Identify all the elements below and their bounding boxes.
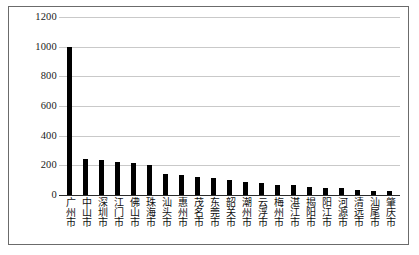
chart-frame: 120010008006004002000 广州市中山市深圳市江门市佛山市珠海市…	[8, 6, 409, 245]
bar-slot	[189, 17, 205, 195]
chart-plot-wrapper: 120010008006004002000 广州市中山市深圳市江门市佛山市珠海市…	[9, 7, 408, 244]
x-axis-label: 潮州市	[239, 197, 253, 243]
x-axis-label: 阳江市	[319, 197, 333, 243]
bar[interactable]	[131, 163, 136, 195]
x-label-slot: 汕尾市	[366, 197, 382, 243]
bar[interactable]	[243, 182, 248, 195]
y-axis-tick-0: 0	[17, 190, 57, 201]
bar-slot	[270, 17, 286, 195]
x-label-slot: 韶关市	[221, 197, 237, 243]
bar-slot	[77, 17, 93, 195]
x-label-slot: 佛山市	[125, 197, 141, 243]
x-label-slot: 肇庆市	[382, 197, 398, 243]
bar[interactable]	[387, 191, 392, 195]
x-axis-label: 惠州市	[174, 197, 188, 243]
y-axis-tick-400: 400	[17, 130, 57, 141]
x-label-slot: 珠海市	[141, 197, 157, 243]
x-label-slot: 深圳市	[93, 197, 109, 243]
bar[interactable]	[259, 183, 264, 195]
x-axis-label: 东莞市	[206, 197, 220, 243]
bar-slot	[318, 17, 334, 195]
x-axis-label: 佛山市	[126, 197, 140, 243]
x-label-slot: 惠州市	[173, 197, 189, 243]
bar[interactable]	[275, 185, 280, 195]
x-label-slot: 广州市	[61, 197, 77, 243]
y-axis-tick-1200: 1200	[17, 12, 57, 23]
x-axis-label: 韶关市	[222, 197, 236, 243]
x-axis-label: 茂名市	[190, 197, 204, 243]
x-label-slot: 东莞市	[205, 197, 221, 243]
bar[interactable]	[179, 175, 184, 195]
x-axis-label: 珠海市	[142, 197, 156, 243]
bar-slot	[286, 17, 302, 195]
x-label-slot: 茂名市	[189, 197, 205, 243]
bar-slot	[93, 17, 109, 195]
y-axis-tick-1000: 1000	[17, 41, 57, 52]
bar[interactable]	[163, 174, 168, 195]
x-axis-label: 中山市	[78, 197, 92, 243]
y-axis-tick-labels: 120010008006004002000	[13, 7, 57, 244]
x-label-slot: 梅州市	[270, 197, 286, 243]
bar-slot	[221, 17, 237, 195]
x-label-slot: 汕头市	[157, 197, 173, 243]
x-axis-label: 河源市	[335, 197, 349, 243]
x-label-slot: 清远市	[350, 197, 366, 243]
y-axis-tick-800: 800	[17, 71, 57, 82]
bar[interactable]	[371, 191, 376, 195]
bar-slot	[125, 17, 141, 195]
bar[interactable]	[307, 187, 312, 195]
y-axis-tick-600: 600	[17, 101, 57, 112]
axis-baseline	[59, 195, 400, 196]
x-axis-tick-labels: 广州市中山市深圳市江门市佛山市珠海市汕头市惠州市茂名市东莞市韶关市潮州市云浮市梅…	[59, 197, 400, 243]
bar[interactable]	[291, 185, 296, 195]
x-label-slot: 揭阳市	[302, 197, 318, 243]
bar-slot	[157, 17, 173, 195]
x-label-slot: 潮州市	[238, 197, 254, 243]
bar-slot	[334, 17, 350, 195]
bar[interactable]	[323, 188, 328, 195]
bar-slot	[382, 17, 398, 195]
bar-slot	[254, 17, 270, 195]
x-axis-label: 揭阳市	[303, 197, 317, 243]
x-axis-label: 肇庆市	[383, 197, 397, 243]
bar-slot	[61, 17, 77, 195]
bar[interactable]	[67, 47, 72, 195]
x-label-slot: 河源市	[334, 197, 350, 243]
x-label-slot: 阳江市	[318, 197, 334, 243]
bar-slot	[173, 17, 189, 195]
x-axis-label: 汕尾市	[367, 197, 381, 243]
bar[interactable]	[83, 159, 88, 195]
x-axis-label: 清远市	[351, 197, 365, 243]
bar[interactable]	[355, 190, 360, 195]
bar[interactable]	[147, 165, 152, 195]
x-axis-label: 湛江市	[287, 197, 301, 243]
x-label-slot: 湛江市	[286, 197, 302, 243]
bar-slot	[350, 17, 366, 195]
bar-slot	[366, 17, 382, 195]
bar[interactable]	[211, 178, 216, 195]
x-axis-label: 江门市	[110, 197, 124, 243]
bar[interactable]	[99, 160, 104, 195]
bar[interactable]	[339, 188, 344, 195]
x-label-slot: 江门市	[109, 197, 125, 243]
bar-slot	[141, 17, 157, 195]
x-label-slot: 中山市	[77, 197, 93, 243]
bar-slot	[238, 17, 254, 195]
x-axis-label: 梅州市	[271, 197, 285, 243]
bar-slot	[205, 17, 221, 195]
bar[interactable]	[115, 162, 120, 195]
x-label-slot: 云浮市	[254, 197, 270, 243]
x-axis-label: 云浮市	[255, 197, 269, 243]
bar-slot	[302, 17, 318, 195]
x-axis-label: 广州市	[62, 197, 76, 243]
plot-area	[59, 17, 400, 195]
bar[interactable]	[227, 180, 232, 195]
bar[interactable]	[195, 177, 200, 195]
bar-slot	[109, 17, 125, 195]
y-axis-tick-200: 200	[17, 160, 57, 171]
bar-series	[59, 17, 400, 195]
x-axis-label: 汕头市	[158, 197, 172, 243]
x-axis-label: 深圳市	[94, 197, 108, 243]
